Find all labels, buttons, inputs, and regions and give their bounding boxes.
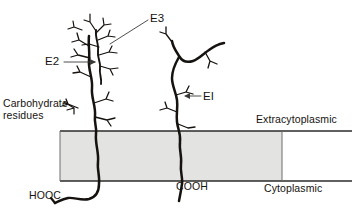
label-e3: E3: [150, 12, 164, 26]
branch-e3-5: [100, 66, 118, 75]
branch-e2-5: [95, 117, 115, 126]
branch-e3-4: [99, 46, 117, 55]
branch-e1-2: [205, 52, 217, 68]
label-hooc-terminus: HOOC: [29, 189, 61, 201]
branch-e2-2: [71, 49, 90, 58]
branch-e1-3: [176, 86, 193, 95]
branch-e3-3: [98, 30, 115, 40]
branch-e1-1: [160, 27, 172, 42]
branch-e3-1: [84, 14, 96, 31]
branch-e3-2: [96, 18, 111, 33]
diagram-canvas: E3 E2 EI Carbohydrate residues Extracyto…: [0, 0, 352, 220]
chain-e3: [96, 30, 101, 84]
leader-e2-arrowhead: [90, 59, 96, 65]
branch-e3-7: [68, 21, 82, 30]
leader-lines: [64, 20, 201, 114]
chain-e1-backbone: [172, 41, 224, 62]
chain-e3-branches: [68, 14, 118, 75]
membrane-bilayer: [60, 131, 352, 181]
label-cooh-terminus: COOH: [176, 180, 208, 192]
branch-e2-4: [94, 92, 113, 103]
label-extracytoplasmic: Extracytoplasmic: [256, 113, 337, 125]
label-cytoplasmic: Cytoplasmic: [264, 182, 322, 194]
chain-e1-branches: [160, 27, 217, 128]
branch-e1-4: [160, 102, 177, 112]
branch-e1-5: [178, 124, 195, 128]
label-e2: E2: [45, 55, 59, 69]
branch-e3-6: [82, 44, 99, 47]
chain-e3-backbone: [96, 30, 101, 84]
leader-e1-arrowhead: [184, 93, 190, 99]
label-carbohydrate-residues: Carbohydrate residues: [3, 97, 68, 122]
label-e1: EI: [203, 90, 214, 104]
membrane-band: [60, 131, 282, 181]
leader-e3: [110, 20, 148, 44]
